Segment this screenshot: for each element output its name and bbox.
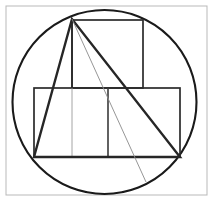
figure-background [0, 0, 213, 204]
figure-canvas: Geometric construction: circle with insc… [0, 0, 213, 204]
geometry-diagram: Geometric construction: circle with insc… [0, 0, 213, 204]
